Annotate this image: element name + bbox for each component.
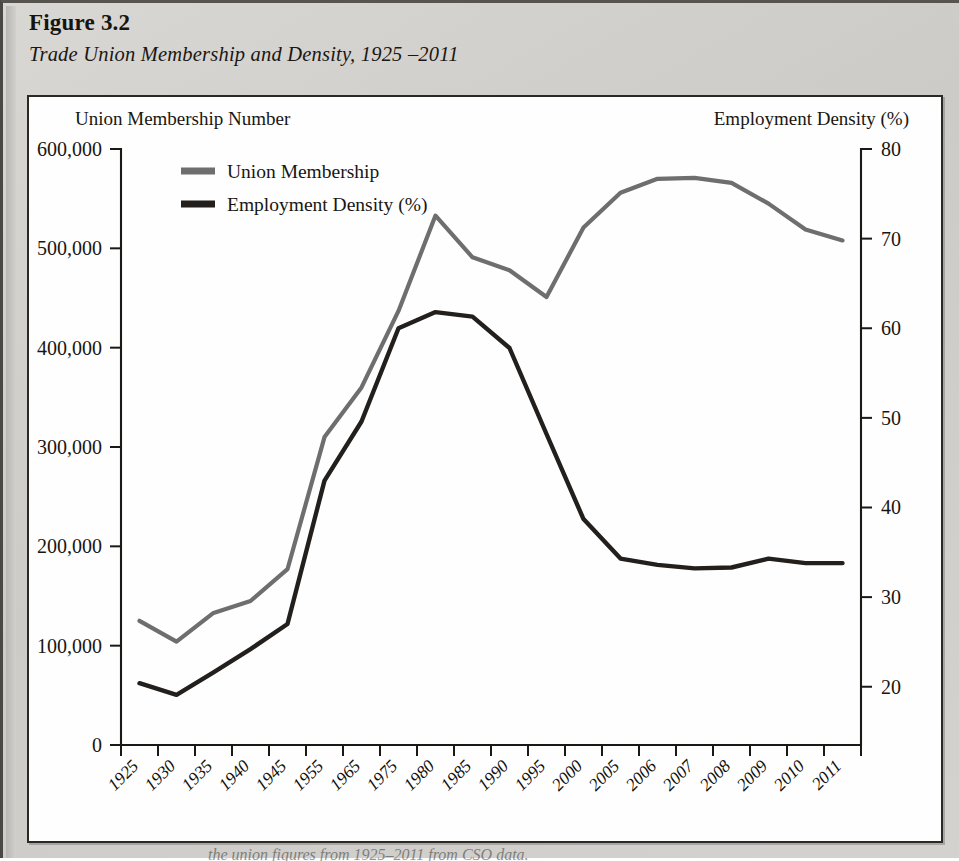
left-tick-label: 0 (92, 734, 102, 756)
x-tick-label: 1940 (214, 756, 253, 795)
x-tick-label: 1955 (288, 756, 327, 795)
series-line-0 (140, 178, 843, 642)
chart-axis-labels: 0100,000200,000300,000400,000500,000600,… (37, 108, 909, 841)
right-tick-label: 30 (881, 586, 901, 608)
right-tick-label: 50 (881, 407, 901, 429)
x-tick-label: 2007 (658, 755, 698, 795)
chart-series-group (140, 178, 843, 695)
x-tick-label: 2010 (769, 756, 808, 795)
legend-label-0: Union Membership (227, 161, 379, 182)
right-tick-label: 60 (881, 317, 901, 339)
x-tick-label: 1935 (177, 756, 216, 795)
chart-panel: Union MembershipEmployment Density (%) 0… (27, 95, 943, 843)
figure-caption: the union figures from 1925–2011 from CS… (208, 848, 529, 861)
left-tick-label: 500,000 (37, 237, 102, 259)
left-tick-label: 400,000 (37, 337, 102, 359)
x-tick-label: 1980 (399, 756, 438, 795)
series-line-1 (140, 312, 843, 695)
left-axis-caption: Union Membership Number (75, 108, 291, 129)
x-tick-label: 1925 (103, 756, 142, 795)
left-tick-label: 200,000 (37, 535, 102, 557)
x-axis-title: Year (549, 839, 589, 841)
x-tick-label: 2008 (695, 756, 734, 795)
x-tick-label: 1965 (325, 756, 364, 795)
caption-strip: the union figures from 1925–2011 from CS… (3, 848, 959, 861)
x-tick-label: 1930 (140, 756, 179, 795)
line-chart: Union MembershipEmployment Density (%) 0… (29, 97, 941, 841)
x-tick-label: 2005 (584, 756, 623, 795)
left-tick-label: 300,000 (37, 436, 102, 458)
plate-edge-shading (6, 6, 16, 858)
left-tick-label: 600,000 (37, 138, 102, 160)
figure-subtitle: Trade Union Membership and Density, 1925… (29, 39, 929, 69)
x-tick-label: 2006 (621, 756, 660, 795)
right-tick-label: 70 (881, 228, 901, 250)
chart-legend: Union MembershipEmployment Density (%) (181, 161, 427, 216)
x-tick-label: 2000 (547, 756, 586, 795)
x-tick-label: 1945 (251, 756, 290, 795)
x-tick-label: 1995 (510, 756, 549, 795)
right-tick-label: 40 (881, 496, 901, 518)
right-axis-caption: Employment Density (%) (714, 108, 909, 130)
right-tick-label: 80 (881, 138, 901, 160)
figure-number: Figure 3.2 (29, 9, 929, 37)
x-tick-label: 1975 (362, 756, 401, 795)
right-tick-label: 20 (881, 676, 901, 698)
x-tick-label: 2009 (732, 756, 771, 795)
legend-label-1: Employment Density (%) (227, 194, 427, 216)
x-tick-label: 1985 (436, 756, 475, 795)
figure-heading: Figure 3.2 Trade Union Membership and De… (29, 9, 929, 69)
x-tick-label: 1990 (473, 756, 512, 795)
x-tick-label: 2011 (807, 756, 845, 794)
left-tick-label: 100,000 (37, 635, 102, 657)
